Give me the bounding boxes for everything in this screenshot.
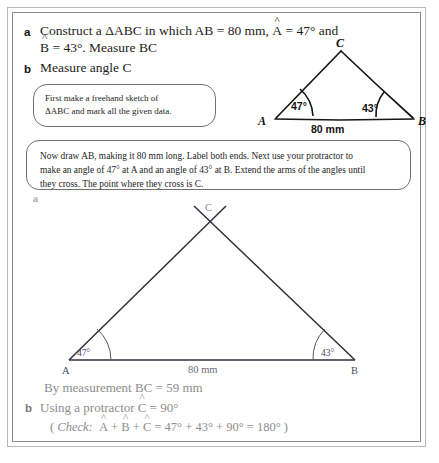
hint-callout: First make a freehand sketch of ΔABC and… <box>33 84 216 127</box>
triangle-label-a: A <box>62 365 70 376</box>
question-b-marker: b <box>24 63 31 75</box>
question-b-text: Measure angle C <box>40 59 131 76</box>
question-a-line2: ^B = 43°. Measure BC <box>40 39 157 56</box>
sketch-side-ac <box>276 51 341 118</box>
measurement-result: By measurement BC = 59 mm <box>44 379 203 396</box>
check-keyword: Check: <box>57 420 92 434</box>
construction-arm-from-a <box>69 206 226 360</box>
worked-example-page: a Construct a ΔABC in which AB = 80 mm, … <box>0 0 439 463</box>
method-line-3: they cross. The point where they cross i… <box>40 177 397 191</box>
freehand-sketch-triangle: A B C 47° 43° 80 mm <box>250 36 430 136</box>
check-plus-1: + <box>108 420 121 434</box>
check-rest: = 47° + 43° + 90° = 180° ) <box>151 420 288 434</box>
question-a-marker: a <box>24 26 30 38</box>
triangle-label-b: B <box>351 365 358 376</box>
answer-part-b-post: = 90° <box>147 400 179 415</box>
sketch-angle-b-label: 43° <box>362 102 378 114</box>
angle-arc-a <box>97 329 111 360</box>
triangle-base-label: 80 mm <box>188 364 217 375</box>
answer-part-a-marker: a <box>33 194 38 204</box>
check-angle-b-symbol: ^B <box>121 419 129 436</box>
question-a-line1-pre: Construct a ΔABC in which AB = 80 mm, <box>40 23 272 38</box>
hat-accent-icon: ^ <box>101 412 106 423</box>
check-angle-c-symbol: ^C <box>143 419 151 436</box>
hat-accent-icon: ^ <box>275 15 280 26</box>
method-line-1: Now draw AB, making it 80 mm long. Label… <box>40 149 397 163</box>
hat-accent-icon: ^ <box>123 412 128 423</box>
construction-arm-from-b <box>194 206 355 360</box>
sketch-label-b: B <box>417 114 426 128</box>
hat-accent-icon: ^ <box>140 392 145 403</box>
hat-accent-icon: ^ <box>42 32 47 43</box>
hint-line-1: First make a freehand sketch of <box>45 92 204 105</box>
sketch-label-c: C <box>336 36 345 50</box>
triangle-angle-a-label: 47° <box>77 348 91 358</box>
angle-b-symbol: ^B <box>40 39 49 56</box>
question-a-line2-post: = 43°. Measure BC <box>49 40 157 55</box>
method-callout: Now draw AB, making it 80 mm long. Label… <box>26 140 411 190</box>
triangle-angle-b-label: 43° <box>321 348 335 358</box>
answer-part-b-marker: b <box>25 402 32 414</box>
constructed-triangle: A B C 47° 43° 80 mm <box>40 198 380 378</box>
check-line: ( Check: ^A + ^B + ^C = 47° + 43° + 90° … <box>50 419 288 436</box>
sketch-base-label: 80 mm <box>311 123 344 135</box>
hint-line-2: ΔABC and mark all the given data. <box>45 105 204 118</box>
answer-part-b-text: Using a protractor ^C = 90° <box>40 399 179 416</box>
method-line-2: make an angle of 47° at A and an angle o… <box>40 163 397 177</box>
triangle-label-c: C <box>205 202 212 213</box>
sketch-angle-a-label: 47° <box>291 100 307 112</box>
hat-accent-icon: ^ <box>145 412 150 423</box>
sketch-label-a: A <box>257 114 266 128</box>
check-angle-a-symbol: ^A <box>99 419 108 436</box>
check-plus-2: + <box>130 420 143 434</box>
sketch-side-ab <box>275 119 414 120</box>
